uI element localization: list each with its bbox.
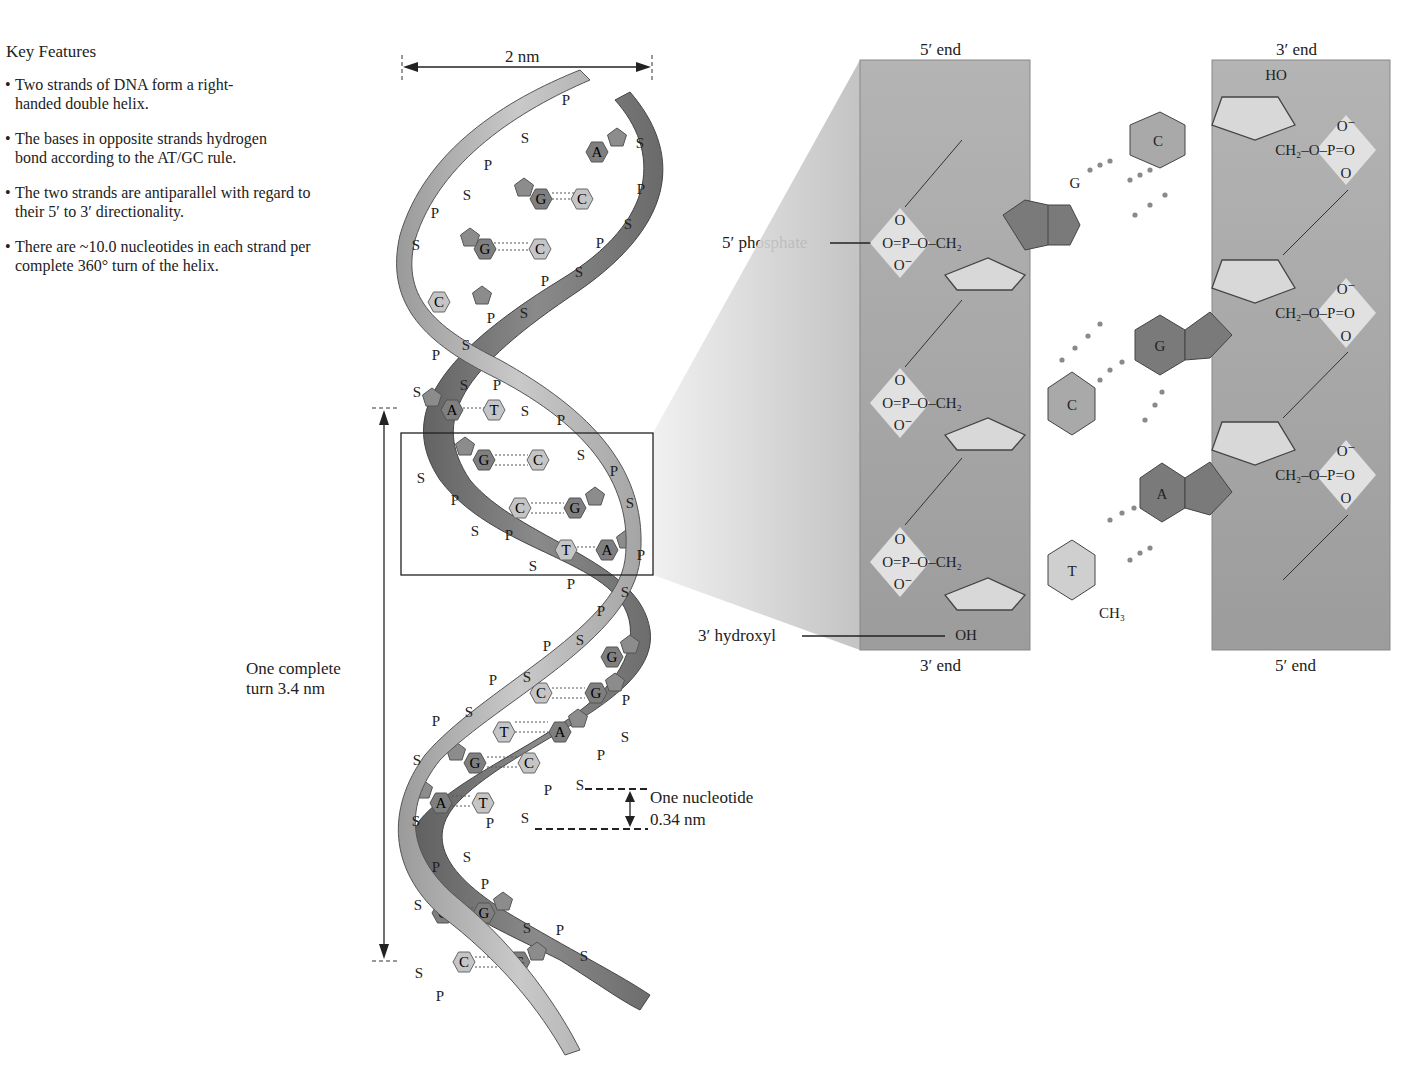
svg-text:C: C (434, 294, 444, 310)
svg-text:P: P (637, 547, 645, 563)
svg-text:S: S (465, 704, 473, 720)
svg-text:P: P (597, 747, 605, 763)
svg-text:CH₃: CH₃ (1099, 605, 1125, 621)
svg-text:T: T (561, 542, 570, 558)
svg-text:T: T (478, 795, 487, 811)
svg-text:P: P (637, 181, 645, 197)
svg-text:G: G (470, 755, 481, 771)
svg-text:S: S (413, 752, 421, 768)
svg-text:S: S (521, 130, 529, 146)
svg-text:A: A (436, 795, 447, 811)
svg-text:G: G (1070, 175, 1081, 191)
svg-text:O⁻: O⁻ (894, 417, 913, 433)
svg-text:S: S (462, 337, 470, 353)
svg-text:S: S (413, 384, 421, 400)
svg-text:P: P (481, 876, 489, 892)
svg-text:P: P (556, 922, 564, 938)
detail-bases: G C C G T CH₃ A (1003, 112, 1232, 621)
svg-text:A: A (555, 724, 566, 740)
svg-text:G: G (570, 500, 581, 516)
svg-text:CH₂–O–P=O: CH₂–O–P=O (1275, 305, 1355, 321)
svg-text:P: P (622, 692, 630, 708)
svg-text:O: O (895, 372, 906, 388)
svg-text:P: P (544, 782, 552, 798)
svg-text:S: S (463, 187, 471, 203)
zoom-wedge (653, 60, 860, 650)
svg-text:S: S (523, 920, 531, 936)
svg-text:S: S (417, 470, 425, 486)
svg-text:S: S (624, 216, 632, 232)
base-pair: G C (515, 178, 594, 209)
base-pair: A T (414, 780, 495, 813)
svg-text:P: P (431, 205, 439, 221)
base-pair: G C (461, 228, 552, 259)
svg-text:O=P–O–CH₂: O=P–O–CH₂ (882, 235, 962, 251)
svg-text:P: P (451, 492, 459, 508)
svg-text:S: S (460, 377, 468, 393)
svg-text:P: P (543, 638, 551, 654)
svg-text:T: T (1067, 563, 1076, 579)
svg-text:P: P (487, 310, 495, 326)
width-dimension (402, 55, 652, 80)
svg-text:P: P (432, 859, 440, 875)
svg-text:P: P (436, 988, 444, 1004)
svg-text:S: S (414, 897, 422, 913)
svg-text:O: O (895, 531, 906, 547)
svg-text:O⁻: O⁻ (894, 257, 913, 273)
svg-text:G: G (607, 649, 618, 665)
svg-text:T: T (499, 724, 508, 740)
svg-text:O: O (1341, 490, 1352, 506)
svg-text:P: P (489, 672, 497, 688)
svg-text:A: A (602, 542, 613, 558)
svg-text:S: S (471, 523, 479, 539)
svg-text:CH₂–O–P=O: CH₂–O–P=O (1275, 467, 1355, 483)
svg-text:G: G (480, 241, 491, 257)
svg-text:O=P–O–CH₂: O=P–O–CH₂ (882, 395, 962, 411)
svg-text:C: C (459, 954, 469, 970)
dna-diagram: A G C G C C A T G C C G (0, 0, 1407, 1071)
svg-text:S: S (415, 965, 423, 981)
svg-text:S: S (463, 849, 471, 865)
base-pair: C G (509, 487, 605, 518)
svg-text:O⁻: O⁻ (894, 576, 913, 592)
base-pair: C (428, 286, 492, 312)
svg-text:G: G (536, 191, 547, 207)
top-3prime-hydroxyl: HO (1265, 67, 1287, 83)
cytosine-base: C (1048, 372, 1095, 435)
svg-text:P: P (562, 92, 570, 108)
svg-text:P: P (432, 347, 440, 363)
thymine-base: T CH₃ (1048, 540, 1125, 621)
svg-text:S: S (521, 403, 529, 419)
svg-text:P: P (493, 377, 501, 393)
svg-text:P: P (505, 527, 513, 543)
svg-text:S: S (523, 669, 531, 685)
svg-text:G: G (1155, 338, 1166, 354)
svg-text:P: P (486, 815, 494, 831)
svg-text:C: C (535, 241, 545, 257)
svg-text:S: S (576, 632, 584, 648)
svg-text:T: T (489, 402, 498, 418)
svg-text:G: G (479, 452, 490, 468)
svg-text:P: P (557, 412, 565, 428)
svg-text:C: C (1067, 397, 1077, 413)
svg-text:CH₂–O–P=O: CH₂–O–P=O (1275, 142, 1355, 158)
turn-dimension (372, 408, 400, 961)
svg-text:S: S (621, 729, 629, 745)
svg-text:C: C (577, 191, 587, 207)
svg-text:P: P (541, 273, 549, 289)
svg-text:S: S (636, 135, 644, 151)
svg-text:P: P (432, 713, 440, 729)
svg-text:S: S (575, 264, 583, 280)
svg-text:A: A (592, 144, 603, 160)
svg-text:P: P (567, 576, 575, 592)
bottom-3prime-hydroxyl: OH (955, 627, 977, 643)
svg-text:P: P (484, 157, 492, 173)
svg-text:C: C (515, 500, 525, 516)
svg-text:P: P (597, 603, 605, 619)
svg-text:O⁻: O⁻ (1337, 443, 1356, 459)
svg-text:O⁻: O⁻ (1337, 118, 1356, 134)
svg-text:O⁻: O⁻ (1337, 281, 1356, 297)
svg-text:S: S (521, 810, 529, 826)
svg-text:S: S (520, 305, 528, 321)
cytosine-base: C (1130, 112, 1185, 168)
